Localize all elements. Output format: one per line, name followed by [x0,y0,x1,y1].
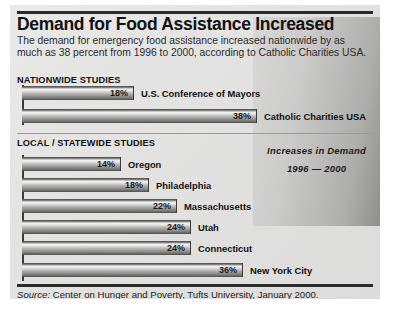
bar-value-label: 14% [87,159,115,169]
bar-category-label: Connecticut [198,243,252,254]
chart-title: Demand for Food Assistance Increased [17,14,334,35]
source-text: Center on Hunger and Poverty, Tufts Univ… [50,289,318,299]
bar-category-label: Utah [198,222,219,233]
section-heading-nationwide: NATIONWIDE STUDIES [17,75,121,85]
source-label: Source: [17,289,50,299]
section-heading-local: LOCAL / STATEWIDE STUDIES [17,138,155,148]
bar-value-label: 22% [143,201,171,211]
bar-value-label: 24% [157,243,185,253]
callout-line-2: 1996 — 2000 [253,163,380,174]
bar-category-label: New York City [250,265,312,276]
bar [22,109,257,123]
section-divider [17,133,373,134]
bar-value-label: 38% [223,111,251,121]
bar-value-label: 24% [157,222,185,232]
callout-line-1: Increases in Demand [253,145,380,156]
bar-category-label: Catholic Charities USA [264,111,366,122]
bar-category-label: U.S. Conference of Mayors [141,88,260,99]
source-note: Source: Center on Hunger and Poverty, Tu… [17,289,318,299]
bar-category-label: Massachusetts [184,201,251,212]
bar-value-label: 18% [115,180,143,190]
bottom-rule [17,284,373,287]
bar-value-label: 18% [100,88,128,98]
chart-figure: Increases in Demand 1996 — 2000 Demand f… [10,5,380,299]
bar-category-label: Philadelphia [156,180,211,191]
bar-value-label: 36% [209,265,237,275]
chart-deck: The demand for emergency food assistance… [17,35,367,60]
bar-category-label: Oregon [128,159,161,170]
